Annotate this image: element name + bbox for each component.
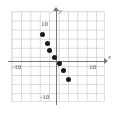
data-point <box>52 55 57 60</box>
data-point <box>40 32 45 37</box>
data-point <box>61 68 66 73</box>
data-point <box>45 41 50 46</box>
data-point-layer <box>0 0 117 113</box>
data-point <box>57 61 62 66</box>
scatter-plot-figure: x y -10 10 10 -10 <box>0 0 117 113</box>
data-point <box>66 77 71 82</box>
data-point <box>47 48 52 53</box>
